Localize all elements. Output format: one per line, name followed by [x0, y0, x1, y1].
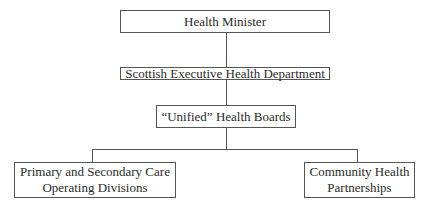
node-unified-boards: “Unified” Health Boards: [156, 105, 296, 128]
node-label-line2: Partnerships: [327, 180, 391, 196]
node-label: “Unified” Health Boards: [161, 109, 290, 125]
node-chp: Community Health Partnerships: [304, 162, 415, 198]
node-label-line2: Operating Divisions: [42, 180, 147, 196]
node-label: Scottish Executive Health Department: [125, 66, 325, 82]
connector-sehd-boards: [226, 80, 227, 105]
connector-horizontal: [92, 149, 358, 150]
node-label-line1: Community Health: [309, 164, 409, 180]
connector-to-chp: [357, 149, 358, 162]
node-label-line1: Primary and Secondary Care: [20, 164, 170, 180]
node-operating-divisions: Primary and Secondary Care Operating Div…: [14, 162, 176, 198]
connector-to-divisions: [92, 149, 93, 162]
node-health-minister: Health Minister: [120, 10, 330, 33]
node-sehd: Scottish Executive Health Department: [120, 67, 330, 80]
connector-boards-down: [226, 128, 227, 150]
connector-minister-sehd: [226, 33, 227, 67]
node-label: Health Minister: [184, 14, 266, 30]
